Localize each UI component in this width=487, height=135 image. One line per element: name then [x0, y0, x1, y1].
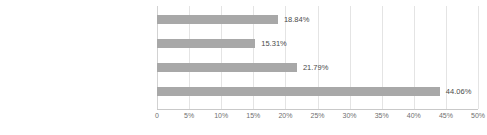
bar — [157, 15, 278, 24]
x-tick-label: 30% — [343, 112, 357, 119]
bar — [157, 87, 440, 96]
plot-area: 我不清楚，无从判断18.84%没有规划，就是几个业务板块在用着看15.31%正在… — [157, 6, 478, 109]
x-tick-label: 0 — [155, 112, 159, 119]
bar-row: 我不清楚，无从判断18.84% — [157, 8, 478, 32]
x-tick-label: 10% — [214, 112, 228, 119]
bar-value-label: 44.06% — [440, 80, 471, 104]
bar-chart: 我不清楚，无从判断18.84%没有规划，就是几个业务板块在用着看15.31%正在… — [0, 0, 487, 135]
bar-row: 已经清晰地规划出近三年或更长的数字化建设目标44.06% — [157, 80, 478, 104]
x-tick-label: 5% — [184, 112, 194, 119]
bar-row: 正在规划中，具体内容还没出来21.79% — [157, 56, 478, 80]
x-tick-label: 25% — [310, 112, 324, 119]
x-tick-label: 35% — [375, 112, 389, 119]
x-axis-tick-labels: 05%10%15%20%25%30%35%40%45%50% — [157, 112, 478, 126]
bar-value-label: 21.79% — [297, 56, 328, 80]
bar-row: 没有规划，就是几个业务板块在用着看15.31% — [157, 32, 478, 56]
bar-value-label: 18.84% — [278, 8, 309, 32]
x-tick-label: 15% — [246, 112, 260, 119]
bar — [157, 39, 255, 48]
x-tick-label: 50% — [471, 112, 485, 119]
x-tick-label: 20% — [278, 112, 292, 119]
x-tick-label: 40% — [407, 112, 421, 119]
gridline — [478, 6, 479, 109]
bar — [157, 63, 297, 72]
x-tick-label: 45% — [439, 112, 453, 119]
bar-value-label: 15.31% — [255, 32, 286, 56]
x-axis-line — [157, 109, 478, 110]
